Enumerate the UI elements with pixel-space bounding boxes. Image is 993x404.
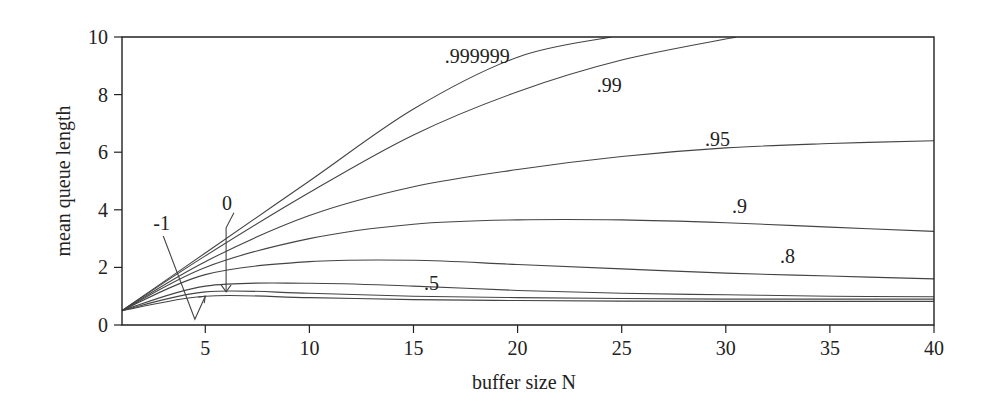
axes: 0246810510152025303540	[88, 26, 944, 359]
y-axis-title: mean queue length	[52, 105, 75, 256]
curve-p8	[122, 260, 934, 311]
x-tick-label: 15	[403, 337, 423, 359]
y-tick-label: 10	[88, 26, 108, 48]
curve-p5	[122, 283, 934, 311]
x-tick-label: 40	[924, 337, 944, 359]
x-tick-label: 5	[200, 337, 210, 359]
curve-label: .99	[597, 74, 622, 96]
curve-label: .8	[780, 245, 795, 267]
curve-p999999	[122, 37, 611, 311]
y-tick-label: 2	[98, 256, 108, 278]
x-tick-label: 30	[716, 337, 736, 359]
curve-label: 0	[222, 192, 232, 214]
curve-labels: .999999.99.95.9.8.50-1	[153, 45, 795, 319]
y-tick-label: 8	[98, 84, 108, 106]
x-axis-title: buffer size N	[472, 371, 576, 393]
curve-p95	[122, 141, 934, 311]
chart: .999999.99.95.9.8.50-1 02468105101520253…	[0, 0, 993, 404]
curve-label: .5	[424, 272, 439, 294]
y-tick-label: 6	[98, 141, 108, 163]
x-tick-label: 25	[612, 337, 632, 359]
curves	[122, 37, 934, 311]
curve-label: .999999	[445, 45, 510, 67]
curve-label: .9	[732, 195, 747, 217]
x-tick-label: 20	[508, 337, 528, 359]
x-tick-label: 35	[820, 337, 840, 359]
plot-frame	[122, 37, 934, 325]
y-tick-label: 4	[98, 199, 108, 221]
pointer-line	[226, 213, 234, 292]
y-tick-label: 0	[98, 314, 108, 336]
curve-label: -1	[153, 212, 170, 234]
curve-label: .95	[705, 128, 730, 150]
x-tick-label: 10	[299, 337, 319, 359]
